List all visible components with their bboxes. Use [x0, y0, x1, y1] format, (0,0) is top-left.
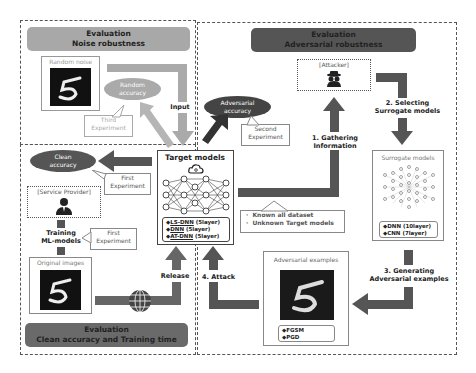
first-experiment-callout-a: First Experiment	[104, 173, 151, 195]
surrogate-model-item: ◆CNN (7layer)	[383, 230, 434, 237]
adversarial-example-image	[280, 270, 334, 320]
adversarial-header: Evaluation Adversarial robustness	[251, 28, 416, 52]
adversarial-examples-box: Adversarial examples ◆FGSM ◆PGD	[263, 251, 349, 346]
random-accuracy-ellipse: Random accuracy	[104, 78, 161, 100]
third-experiment-pointer	[110, 104, 130, 118]
input-arrow-v2	[178, 113, 187, 133]
step1-arrow-v	[330, 150, 339, 197]
clean-header-line1: Evaluation	[25, 325, 188, 335]
random-accuracy-arrow	[138, 100, 178, 150]
training-label: Training ML-models	[35, 229, 87, 245]
step3-label: 3. Generating Adversarial examples	[363, 267, 455, 283]
spy-icon	[326, 71, 342, 87]
surrogate-models-box: Surrogate models ◆DNN (10layer) ◆CNN (7l…	[372, 150, 444, 241]
deep-network-icon	[381, 165, 437, 209]
third-experiment-callout: Third Experiment	[84, 115, 133, 137]
target-models-list: ◆LS-DNN (5layer) ◆DNN (5layer) ◆AT-DNN (…	[162, 217, 230, 242]
provider-connector-2	[57, 247, 65, 255]
second-experiment-pointer	[245, 116, 261, 126]
knowledge-item: · Known all dataset	[246, 211, 344, 219]
service-provider-label: [Service Provider]	[28, 188, 100, 195]
globe-icon	[128, 289, 152, 313]
surrogate-model-item: ◆DNN (10layer)	[383, 223, 434, 230]
step4-label: 4. Attack	[202, 273, 242, 281]
attacker-box: [Attacker]	[297, 59, 371, 91]
input-arrow-v1	[178, 64, 187, 102]
random-noise-box: Random noise	[41, 56, 100, 111]
knowledge-callout: · Known all dataset · Unknown Target mod…	[240, 210, 345, 233]
input-arrow-h	[107, 64, 187, 72]
step2-arrow-head	[391, 131, 413, 145]
original-image	[40, 270, 81, 310]
target-model-item: ◆AT-DNN (5layer)	[166, 233, 226, 240]
clean-header-line2: Clean accuracy and Training time	[25, 335, 188, 345]
attack-method-item: ◆FGSM	[282, 327, 331, 334]
clean-accuracy-arrow-head	[98, 150, 114, 172]
second-experiment-callout: Second Experiment	[241, 124, 290, 146]
knowledge-item: · Unknown Target models	[246, 219, 344, 227]
noise-header-line2: Noise robustness	[27, 39, 190, 49]
adversarial-header-line2: Adversarial robustness	[251, 40, 416, 50]
noise-header-line1: Evaluation	[27, 29, 190, 39]
step3-connector	[404, 250, 413, 265]
cloud-icon	[188, 164, 204, 174]
attack-method-item: ◆PGD	[282, 334, 331, 341]
target-models-title: Target models	[158, 153, 232, 162]
adversarial-accuracy-arrow	[200, 114, 230, 146]
clean-header: Evaluation Clean accuracy and Training t…	[25, 323, 188, 347]
clean-accuracy-arrow-shaft	[112, 157, 152, 166]
surrogate-models-title: Surrogate models	[373, 154, 443, 161]
step3-arrow-head	[352, 293, 368, 315]
adversarial-examples-title: Adversarial examples	[264, 256, 348, 263]
adversarial-header-line1: Evaluation	[251, 30, 416, 40]
person-icon	[56, 197, 72, 215]
original-images-box: Original images	[29, 257, 92, 314]
step4-arrow-head	[202, 246, 224, 260]
step4-arrow-v	[209, 282, 218, 309]
knowledge-pointer	[260, 200, 290, 212]
neural-network-icon	[162, 175, 230, 215]
service-provider-box: [Service Provider]	[27, 186, 101, 218]
release-arrow-v	[172, 282, 181, 305]
step2-arrow-v	[398, 73, 407, 98]
step2-label: 2. Selecting Surrogate models	[370, 99, 445, 115]
attacker-label: [Attacker]	[298, 61, 370, 68]
step1-arrow-h	[238, 188, 339, 197]
random-noise-label: Random noise	[42, 58, 99, 65]
target-model-item: ◆DNN (5layer)	[166, 226, 226, 233]
provider-connector-1	[57, 220, 65, 228]
target-model-item: ◆LS-DNN (5layer)	[166, 219, 226, 226]
surrogate-models-list: ◆DNN (10layer) ◆CNN (7layer)	[379, 221, 438, 238]
first-experiment-callout-b: First Experiment	[90, 228, 137, 250]
step3-arrow-h	[366, 300, 413, 309]
step1-label: 1. Gathering Information	[305, 134, 365, 150]
clean-accuracy-ellipse: Clean accuracy	[30, 150, 96, 172]
original-images-label: Original images	[30, 259, 91, 266]
adversarial-examples-list: ◆FGSM ◆PGD	[278, 325, 335, 342]
target-models-box: Target models ◆LS-DNN (5layer) ◆DNN (5la…	[157, 150, 234, 245]
first-experiment-pointer-a	[92, 170, 108, 180]
noise-header: Evaluation Noise robustness	[27, 27, 190, 51]
release-arrow-head	[165, 246, 187, 260]
first-experiment-pointer-b	[82, 232, 92, 244]
step2-arrow-v2	[398, 118, 407, 132]
step1-arrow-head	[323, 97, 345, 111]
release-label: Release	[155, 272, 195, 280]
step1-arrow-v2	[330, 110, 339, 132]
random-noise-image	[50, 68, 91, 106]
